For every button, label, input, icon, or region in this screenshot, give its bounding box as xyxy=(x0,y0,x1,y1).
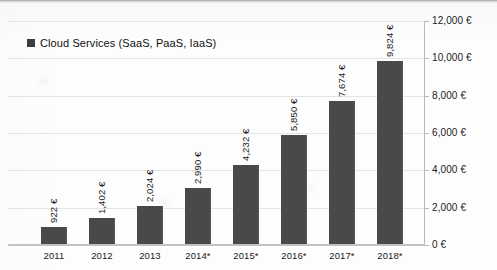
y-axis-tick-labels: 0 €2,000 €4,000 €6,000 €8,000 €10,000 €1… xyxy=(432,0,496,270)
y-axis-tick-label: 6,000 € xyxy=(432,127,466,138)
y-axis-tick xyxy=(425,133,429,134)
x-axis-tick-label: 2013 xyxy=(126,250,174,261)
x-axis-tick-label: 2015* xyxy=(222,250,270,261)
plot-area: 922 €1,402 €2,024 €2,990 €4,232 €5,850 €… xyxy=(8,21,425,245)
y-axis-tick-label: 12,000 € xyxy=(432,15,472,26)
x-axis-tick-label: 2016* xyxy=(270,250,318,261)
x-axis-tick-label: 2018* xyxy=(366,250,414,261)
y-axis-tick xyxy=(425,58,429,59)
bar-group: 5,850 € xyxy=(270,20,318,244)
bar-value-label: 2,024 € xyxy=(144,170,155,202)
y-axis-tick xyxy=(425,170,429,171)
bar-group: 922 € xyxy=(30,20,78,244)
bar-value-label: 2,990 € xyxy=(192,152,203,184)
bar-chart: 922 €1,402 €2,024 €2,990 €4,232 €5,850 €… xyxy=(0,0,497,270)
scan-edge-artifact xyxy=(0,0,497,3)
y-axis-tick xyxy=(425,21,429,22)
x-axis-line xyxy=(8,244,425,245)
x-axis-tick-label: 2012 xyxy=(78,250,126,261)
y-axis-tick-label: 2,000 € xyxy=(432,202,466,213)
y-axis-tick xyxy=(425,245,429,246)
y-axis-tick xyxy=(425,208,429,209)
bar[interactable] xyxy=(329,101,355,244)
bar[interactable] xyxy=(185,188,211,244)
bar[interactable] xyxy=(137,206,163,244)
bar[interactable] xyxy=(41,227,67,244)
bar[interactable] xyxy=(281,135,307,244)
x-axis-tick-label: 2014* xyxy=(174,250,222,261)
bar-value-label: 9,824 € xyxy=(384,24,395,56)
x-axis-tick-label: 2017* xyxy=(318,250,366,261)
bar-value-label: 4,232 € xyxy=(240,129,251,161)
legend-swatch-icon xyxy=(27,39,35,47)
bar-group: 7,674 € xyxy=(318,20,366,244)
bar-value-label: 922 € xyxy=(48,199,59,223)
bar[interactable] xyxy=(377,61,403,244)
legend-series-label: Cloud Services (SaaS, PaaS, IaaS) xyxy=(40,37,216,49)
bar-group: 1,402 € xyxy=(78,20,126,244)
y-axis-tick-label: 10,000 € xyxy=(432,52,472,63)
chart-legend: Cloud Services (SaaS, PaaS, IaaS) xyxy=(27,37,216,49)
bar-group: 9,824 € xyxy=(366,20,414,244)
y-axis-tick xyxy=(425,96,429,97)
bar[interactable] xyxy=(233,165,259,244)
bar-group: 4,232 € xyxy=(222,20,270,244)
bar-group: 2,024 € xyxy=(126,20,174,244)
gridline xyxy=(8,245,425,246)
y-axis-tick-label: 8,000 € xyxy=(432,90,466,101)
bars-layer: 922 €1,402 €2,024 €2,990 €4,232 €5,850 €… xyxy=(8,21,425,245)
bar-value-label: 7,674 € xyxy=(336,64,347,96)
x-axis-tick-label: 2011 xyxy=(30,250,78,261)
bar-value-label: 1,402 € xyxy=(96,181,107,213)
y-axis-tick-label: 0 € xyxy=(432,239,446,250)
bar[interactable] xyxy=(89,218,115,244)
y-axis-tick-label: 4,000 € xyxy=(432,164,466,175)
bar-group: 2,990 € xyxy=(174,20,222,244)
bar-value-label: 5,850 € xyxy=(288,98,299,130)
x-axis-tick-labels: 2011201220132014*2015*2016*2017*2018* xyxy=(8,250,425,268)
